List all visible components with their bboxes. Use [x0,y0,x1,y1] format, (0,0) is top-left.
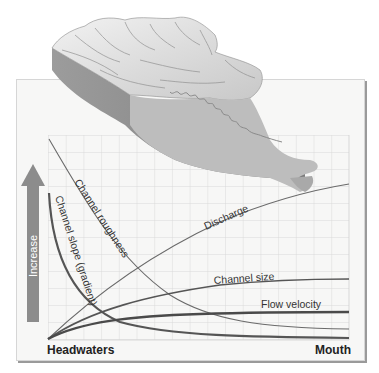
label-flow-velocity: Flow velocity [261,298,322,310]
x-axis-start-label: Headwaters [47,343,114,357]
y-axis-label: Increase [27,235,39,277]
x-axis-end-label: Mouth [315,343,351,357]
river-profile-diagram: Channel roughness Channel slope (gradien… [0,0,379,373]
